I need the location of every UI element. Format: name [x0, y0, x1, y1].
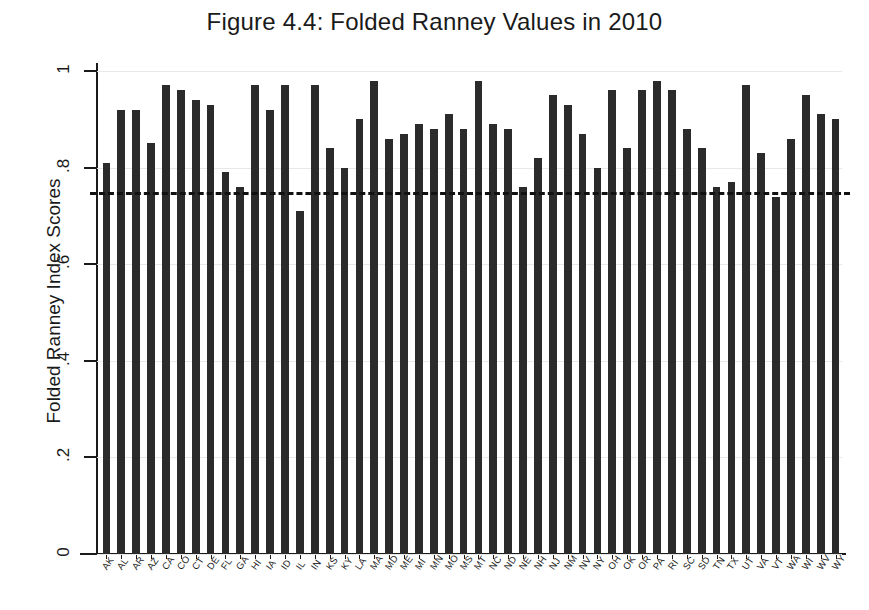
- bar: [296, 211, 304, 554]
- bar: [385, 139, 393, 554]
- figure-container: Figure 4.4: Folded Ranney Values in 2010…: [0, 0, 869, 610]
- bar: [534, 158, 542, 554]
- x-axis-tick: [300, 555, 301, 559]
- bar: [713, 187, 721, 554]
- bar: [489, 124, 497, 554]
- bar: [236, 187, 244, 554]
- bar: [222, 172, 230, 554]
- bar: [772, 197, 780, 554]
- bar: [742, 85, 750, 554]
- bar: [653, 81, 661, 554]
- bar: [802, 95, 810, 554]
- bar: [192, 100, 200, 554]
- bar: [370, 81, 378, 554]
- bar: [281, 85, 289, 554]
- bar: [608, 90, 616, 554]
- bar: [311, 85, 319, 554]
- bar: [103, 163, 111, 554]
- bar: [519, 187, 527, 554]
- bar: [415, 124, 423, 554]
- bar: [668, 90, 676, 554]
- bar: [341, 168, 349, 554]
- bar: [817, 114, 825, 554]
- bar: [623, 148, 631, 554]
- bar: [117, 110, 125, 554]
- bar: [132, 110, 140, 554]
- bar: [266, 110, 274, 554]
- bar: [177, 90, 185, 554]
- bar: [728, 182, 736, 554]
- reference-line: [90, 192, 850, 195]
- bar: [787, 139, 795, 554]
- bar: [564, 105, 572, 554]
- bar: [594, 168, 602, 554]
- bar: [162, 85, 170, 554]
- plot-area: [0, 0, 869, 610]
- bar: [638, 90, 646, 554]
- bar: [698, 148, 706, 554]
- bar: [147, 143, 155, 554]
- bar: [757, 153, 765, 554]
- bar: [251, 85, 259, 554]
- bar: [475, 81, 483, 554]
- bar: [579, 134, 587, 554]
- bar: [400, 134, 408, 554]
- bar: [207, 105, 215, 554]
- bar: [326, 148, 334, 554]
- bar: [356, 119, 364, 554]
- bar: [549, 95, 557, 554]
- bar: [445, 114, 453, 554]
- bar: [832, 119, 840, 554]
